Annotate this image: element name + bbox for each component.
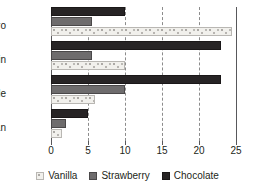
x-tick-label-20: 20 xyxy=(187,145,211,157)
bar-benjamin-chocolate xyxy=(51,41,221,50)
x-tick-label-15: 15 xyxy=(150,145,174,157)
x-tick-label-10: 10 xyxy=(113,145,137,157)
plot-area xyxy=(51,7,236,141)
legend-item-vanilla: Vanilla xyxy=(36,170,77,181)
bar-susan-strawberry xyxy=(51,119,66,128)
bar-nicole-strawberry xyxy=(51,85,125,94)
bar-benjamin-vanilla xyxy=(51,61,125,70)
x-tick-label-0: 0 xyxy=(39,145,63,157)
y-label-pedro: Pedro xyxy=(0,20,6,31)
bar-nicole-chocolate xyxy=(51,75,221,84)
legend-label-strawberry: Strawberry xyxy=(101,170,149,181)
bar-benjamin-strawberry xyxy=(51,51,92,60)
bar-pedro-chocolate xyxy=(51,7,125,16)
y-label-nicole: Nicole xyxy=(0,88,6,99)
x-tick-label-5: 5 xyxy=(76,145,100,157)
x-tick-label-25: 25 xyxy=(224,145,248,157)
legend-item-chocolate: Chocolate xyxy=(162,170,219,181)
bar-susan-chocolate xyxy=(51,109,88,118)
bar-susan-vanilla xyxy=(51,129,62,138)
y-label-susan: Susan xyxy=(0,122,6,133)
bar-nicole-vanilla xyxy=(51,95,95,104)
legend-item-strawberry: Strawberry xyxy=(89,170,149,181)
chart-legend: Vanilla Strawberry Chocolate xyxy=(0,170,255,181)
bar-pedro-vanilla xyxy=(51,27,232,36)
legend-swatch-chocolate-icon xyxy=(162,172,170,180)
legend-swatch-vanilla-icon xyxy=(36,172,44,180)
legend-label-chocolate: Chocolate xyxy=(174,170,219,181)
legend-label-vanilla: Vanilla xyxy=(48,170,77,181)
bar-pedro-strawberry xyxy=(51,17,92,26)
y-label-benjamin: Benjamin xyxy=(0,54,6,65)
bar-chart: Pedro Benjamin Nicole Susan 0 5 10 15 20… xyxy=(0,0,255,191)
legend-swatch-strawberry-icon xyxy=(89,172,97,180)
axis-line-right xyxy=(236,7,237,144)
